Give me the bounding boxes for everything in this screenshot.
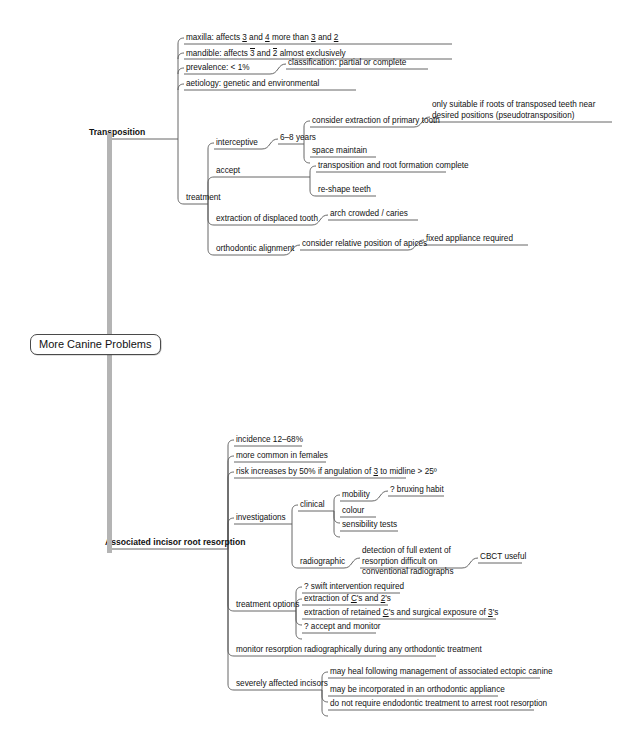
node-monitor-resorption[interactable]: monitor resorption radiographically duri…	[234, 645, 484, 657]
node-fixed-appliance-required[interactable]: fixed appliance required	[424, 234, 515, 246]
node-more-common-females[interactable]: more common in females	[234, 451, 330, 463]
node-extraction-retained-cs[interactable]: extraction of retained C's and surgical …	[302, 608, 500, 620]
node-treatment[interactable]: treatment	[184, 193, 223, 205]
node-accept-and-monitor[interactable]: ? accept and monitor	[302, 622, 382, 634]
node-cbct-useful[interactable]: CBCT useful	[478, 552, 528, 564]
node-severely-affected[interactable]: severely affected incisors	[234, 679, 330, 691]
node-accept[interactable]: accept	[214, 166, 242, 178]
node-investigations[interactable]: investigations	[234, 513, 288, 525]
node-may-be-incorporated[interactable]: may be incorporated in an orthodontic ap…	[328, 685, 507, 697]
node-may-heal[interactable]: may heal following management of associa…	[328, 667, 555, 679]
node-treatment-options[interactable]: treatment options	[234, 600, 301, 612]
node-no-endodontic[interactable]: do not require endodontic treatment to a…	[328, 699, 549, 711]
node-arch-crowded-caries[interactable]: arch crowded / caries	[328, 209, 410, 221]
node-bruxing-habit[interactable]: ? bruxing habit	[388, 485, 446, 497]
node-space-maintain[interactable]: space maintain	[310, 146, 369, 158]
node-re-shape-teeth[interactable]: re-shape teeth	[316, 185, 373, 197]
node-risk-angulation[interactable]: risk increases by 50% if angulation of 3…	[234, 467, 439, 479]
node-colour[interactable]: colour	[340, 506, 366, 518]
node-detection-difficult[interactable]: detection of full extent of resorption d…	[360, 546, 464, 579]
node-pseudotransposition[interactable]: only suitable if roots of transposed tee…	[430, 100, 612, 122]
node-extraction-cs-2s[interactable]: extraction of C's and 2's	[302, 594, 393, 606]
node-interceptive[interactable]: interceptive	[214, 138, 260, 150]
branch-label-root-resorption[interactable]: Associated incisor root resorption	[103, 537, 247, 549]
node-radiographic[interactable]: radiographic	[298, 557, 347, 569]
node-extraction-displaced[interactable]: extraction of displaced tooth	[214, 214, 320, 226]
branch-label-transposition[interactable]: Transposition	[87, 127, 147, 139]
node-mobility[interactable]: mobility	[340, 490, 372, 502]
node-orthodontic-alignment[interactable]: orthodontic alignment	[214, 244, 296, 256]
node-sensibility-tests[interactable]: sensibility tests	[340, 520, 399, 532]
node-consider-extraction-primary[interactable]: consider extraction of primary tooth	[310, 116, 442, 128]
node-aetiology[interactable]: aetiology: genetic and environmental	[184, 79, 321, 91]
node-six-eight-years[interactable]: 6–8 years	[278, 133, 318, 145]
mindmap-canvas: More Canine Problems Transposition maxil…	[0, 0, 623, 745]
node-relative-position-apices[interactable]: consider relative position of apices	[300, 239, 429, 251]
node-prevalence[interactable]: prevalence: < 1%	[184, 63, 252, 75]
node-swift-intervention[interactable]: ? swift intervention required	[302, 582, 406, 594]
node-classification[interactable]: classification: partial or complete	[286, 58, 408, 70]
node-incidence[interactable]: incidence 12–68%	[234, 435, 305, 447]
node-maxilla[interactable]: maxilla: affects 3 and 4 more than 3 and…	[184, 33, 340, 45]
root-node[interactable]: More Canine Problems	[30, 334, 161, 355]
node-transposition-root-formation[interactable]: transposition and root formation complet…	[316, 161, 471, 173]
node-clinical[interactable]: clinical	[298, 500, 327, 512]
